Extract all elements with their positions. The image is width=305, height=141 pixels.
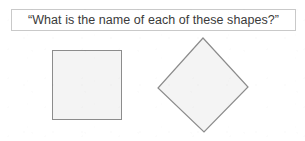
diamond-shape bbox=[157, 37, 249, 133]
prompt-question-text: “What is the name of each of these shape… bbox=[28, 14, 279, 27]
diamond-outline bbox=[158, 38, 248, 132]
worksheet-page: “What is the name of each of these shape… bbox=[0, 0, 305, 141]
prompt-banner: “What is the name of each of these shape… bbox=[11, 9, 296, 31]
diamond-shape-svg bbox=[157, 37, 249, 133]
square-shape bbox=[52, 50, 122, 120]
shapes-illustration-area bbox=[0, 33, 305, 141]
